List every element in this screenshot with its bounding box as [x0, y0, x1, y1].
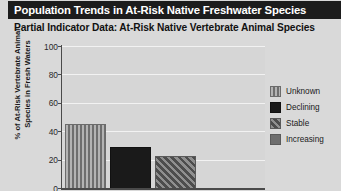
figure-root: Population Trends in At-Risk Native Fres… [0, 0, 341, 191]
gridline [62, 74, 265, 75]
legend-swatch-declining-icon [270, 102, 281, 113]
legend-item-unknown: Unknown [270, 84, 324, 99]
bar-stable [155, 156, 196, 190]
legend-swatch-unknown-icon [270, 86, 281, 97]
legend-label: Stable [286, 119, 309, 128]
legend-label: Unknown [286, 87, 320, 96]
legend-swatch-stable-icon [270, 118, 281, 129]
chart-area: % of At-Risk Vertebrate Animal Species i… [0, 40, 341, 191]
plot-area [62, 46, 265, 190]
bar-declining [110, 147, 151, 190]
gridline [62, 103, 265, 104]
legend-swatch-increasing-icon [270, 134, 281, 145]
y-tick-label: 0 [4, 184, 58, 191]
y-tick-label: 40 [4, 127, 58, 137]
y-axis-ticks: 100 80 60 40 20 0 [0, 40, 58, 191]
legend-item-stable: Stable [270, 116, 324, 131]
figure-title-band: Population Trends in At-Risk Native Fres… [8, 1, 341, 19]
legend-item-declining: Declining [270, 100, 324, 115]
legend-item-increasing: Increasing [270, 132, 324, 147]
legend-label: Declining [286, 103, 320, 112]
x-axis-line [61, 188, 265, 190]
chart-legend: Unknown Declining Stable Increasing [270, 84, 324, 148]
chart-subtitle: Partial Indicator Data: At-Risk Native V… [14, 22, 315, 33]
y-tick-label: 80 [4, 70, 58, 80]
legend-label: Increasing [286, 135, 324, 144]
page-title: Population Trends in At-Risk Native Fres… [8, 4, 306, 16]
bar-unknown [65, 124, 106, 190]
y-axis-line [61, 45, 62, 190]
y-tick-label: 60 [4, 98, 58, 108]
gridline [62, 46, 265, 47]
y-tick-label: 20 [4, 155, 58, 165]
y-tick-label: 100 [4, 42, 58, 52]
